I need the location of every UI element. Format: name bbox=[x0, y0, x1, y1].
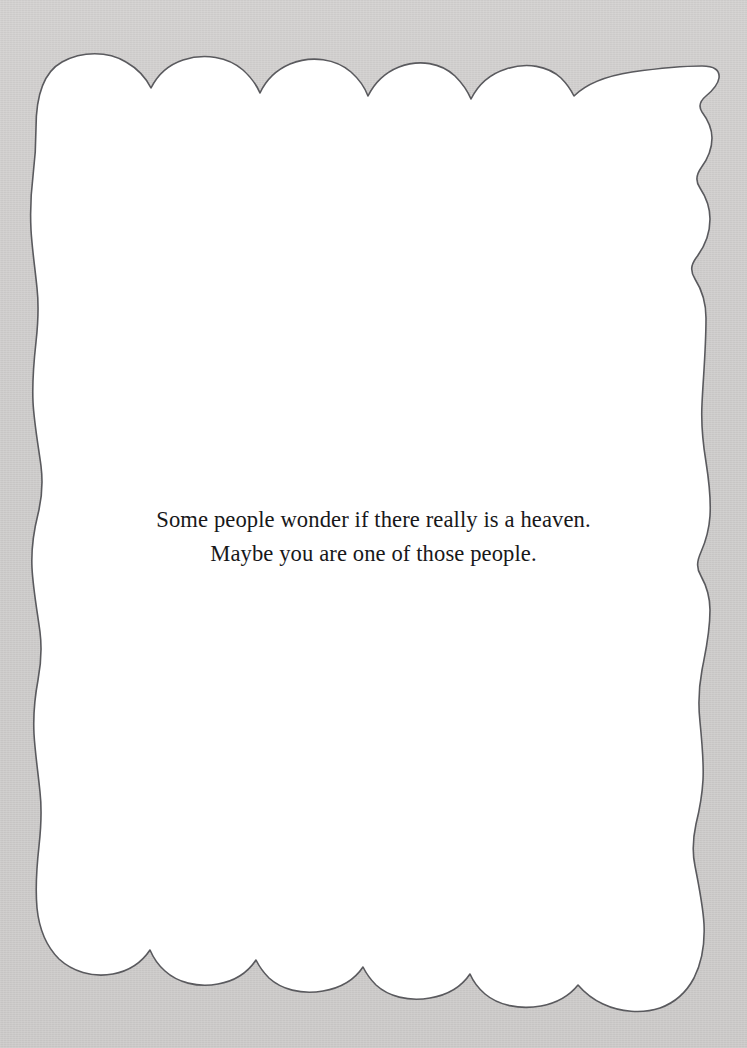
paper-outline-path bbox=[31, 54, 719, 1012]
scanned-page-root: Some people wonder if there really is a … bbox=[0, 0, 747, 1048]
paper-sheet bbox=[0, 0, 747, 1048]
